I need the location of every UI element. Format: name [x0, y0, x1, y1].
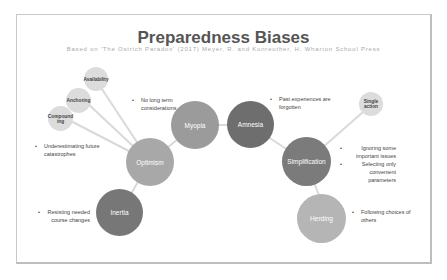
node-label: Herding: [310, 215, 333, 222]
node-herding: Herding: [297, 194, 346, 243]
note-item: Resisting needed course changes: [38, 208, 90, 224]
node-label: Single action: [359, 99, 383, 109]
node-amnesia: Amnesia: [227, 101, 274, 148]
node-label: Availability: [83, 77, 108, 82]
note-item: Underestimating future catastrophes: [35, 142, 110, 158]
node-label: Optimism: [136, 159, 163, 166]
note-herding: Following choices of others: [352, 208, 414, 224]
node-label: Simplification: [287, 158, 325, 165]
node-availability: Availability: [84, 67, 108, 91]
node-inertia: Inertia: [96, 189, 143, 236]
node-label: Amnesia: [238, 121, 263, 128]
node-compounding: Compound ing: [48, 106, 73, 131]
node-label: Inertia: [110, 209, 128, 216]
node-label: Myopia: [185, 122, 206, 129]
node-optimism: Optimism: [126, 138, 174, 186]
note-optimism: Underestimating future catastrophes: [35, 142, 110, 158]
note-amnesia: Past experiences are forgotten: [270, 95, 345, 111]
note-myopia: No long term considerations: [132, 96, 202, 112]
note-item: Ignoring some important issues: [340, 144, 396, 160]
note-inertia: Resisting needed course changes: [38, 208, 90, 224]
node-label: Anchoring: [67, 98, 91, 103]
note-item: Past experiences are forgotten: [270, 95, 345, 111]
node-single-action: Single action: [359, 92, 383, 116]
note-simplification: Ignoring some important issuesSelecting …: [340, 144, 396, 184]
note-item: Following choices of others: [352, 208, 414, 224]
node-label: Compound ing: [48, 114, 73, 124]
note-item: No long term considerations: [132, 96, 202, 112]
note-item: Selecting only convenient parameters: [340, 160, 396, 184]
connector-lines: [0, 0, 447, 280]
node-simplification: Simplification: [282, 137, 331, 186]
